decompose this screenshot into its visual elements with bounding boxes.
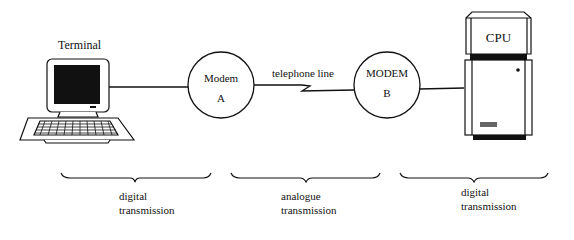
segment-2-line1: analogue	[281, 190, 321, 203]
modem-a-label-line2: A	[196, 92, 246, 105]
terminal-icon	[20, 59, 134, 143]
modem-b-label-line1: MODEM	[357, 67, 417, 80]
segment-3-line2: transmission	[461, 200, 517, 213]
cpu-label: CPU	[470, 31, 527, 44]
segment-1-line2: transmission	[119, 204, 175, 217]
segment-3-line1: digital	[461, 186, 489, 199]
modem-a-node	[188, 52, 254, 118]
terminal-label: Terminal	[58, 39, 101, 52]
modem-b-label-line2: B	[357, 87, 417, 100]
modem-a-label-line1: Modem	[196, 72, 246, 85]
segment-braces	[61, 173, 548, 182]
segment-2-line2: transmission	[281, 204, 337, 217]
telephone-line-label: telephone line	[272, 67, 334, 80]
segment-1-line1: digital	[119, 190, 147, 203]
modem-b-node	[354, 52, 420, 118]
